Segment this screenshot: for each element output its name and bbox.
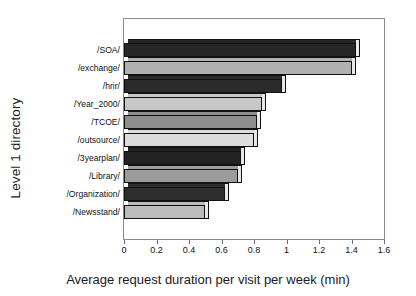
- bar: [124, 61, 356, 75]
- x-axis-tick: [352, 240, 353, 244]
- y-axis-tick-label: /TCOE/: [28, 118, 120, 127]
- x-axis-tick: [319, 240, 320, 244]
- x-axis-tick-label: 1.6: [378, 245, 391, 255]
- bar-side-face: [238, 165, 242, 183]
- bar-front-face: [124, 205, 205, 219]
- bar-side-face: [241, 147, 245, 165]
- x-axis-tick-labels: 00.20.40.60.811.21.41.6: [123, 245, 385, 259]
- bar-front-face: [124, 151, 241, 165]
- bar-chart: Level 1 directory /SOA//exchange//hrir//…: [0, 0, 416, 296]
- y-axis-tick-label: /3yearplan/: [28, 154, 120, 163]
- x-axis-tick-label: 0.6: [215, 245, 228, 255]
- y-axis-tick-label: /outsource/: [28, 136, 120, 145]
- bar-front-face: [124, 187, 225, 201]
- bar-front-face: [124, 79, 282, 93]
- bar: [124, 79, 286, 93]
- y-axis-tick-label: /Organization/: [28, 190, 120, 199]
- x-axis-tick: [254, 240, 255, 244]
- bar-side-face: [356, 39, 360, 57]
- bar-front-face: [124, 133, 254, 147]
- bar-side-face: [254, 129, 258, 147]
- x-axis-tick-label: 1.2: [313, 245, 326, 255]
- x-axis-tick-label: 0: [121, 245, 126, 255]
- y-axis-tick-label: /Year_2000/: [28, 100, 120, 109]
- x-axis-tick: [287, 240, 288, 244]
- bar: [124, 97, 266, 111]
- x-axis-tick: [222, 240, 223, 244]
- bar: [124, 169, 242, 183]
- bar-side-face: [205, 201, 209, 219]
- x-axis-tick-label: 1: [284, 245, 289, 255]
- bar-side-face: [282, 75, 286, 93]
- y-axis-title: Level 1 directory: [0, 0, 30, 296]
- y-axis-tick-label: /SOA/: [28, 46, 120, 55]
- bar-front-face: [124, 61, 352, 75]
- bar: [124, 151, 245, 165]
- x-axis-tick: [384, 240, 385, 244]
- bar-front-face: [124, 97, 262, 111]
- bar: [124, 205, 209, 219]
- x-axis-tick: [157, 240, 158, 244]
- x-axis-tick-label: 0.2: [150, 245, 163, 255]
- x-axis-tick: [189, 240, 190, 244]
- bar: [124, 133, 258, 147]
- y-axis-tick-label: /exchange/: [28, 64, 120, 73]
- x-axis-title: Average request duration per visit per w…: [0, 272, 416, 287]
- bar: [124, 115, 261, 129]
- x-axis-tick-label: 1.4: [345, 245, 358, 255]
- bar-front-face: [124, 169, 238, 183]
- x-axis-tick: [124, 240, 125, 244]
- y-axis-tick-labels: /SOA//exchange//hrir//Year_2000//TCOE//o…: [28, 42, 120, 222]
- bar-front-face: [124, 43, 356, 57]
- bar: [124, 187, 229, 201]
- x-axis-tick-label: 0.4: [183, 245, 196, 255]
- y-axis-tick-label: /Newsstand/: [28, 208, 120, 217]
- bar-front-face: [124, 115, 257, 129]
- x-axis-tick-label: 0.8: [248, 245, 261, 255]
- bar-side-face: [352, 57, 356, 75]
- y-axis-tick-label: /Library/: [28, 172, 120, 181]
- bar-side-face: [257, 111, 261, 129]
- plot-area: [123, 18, 385, 240]
- bar-side-face: [262, 93, 266, 111]
- y-axis-tick-label: /hrir/: [28, 82, 120, 91]
- bar-side-face: [225, 183, 229, 201]
- bar: [124, 43, 360, 57]
